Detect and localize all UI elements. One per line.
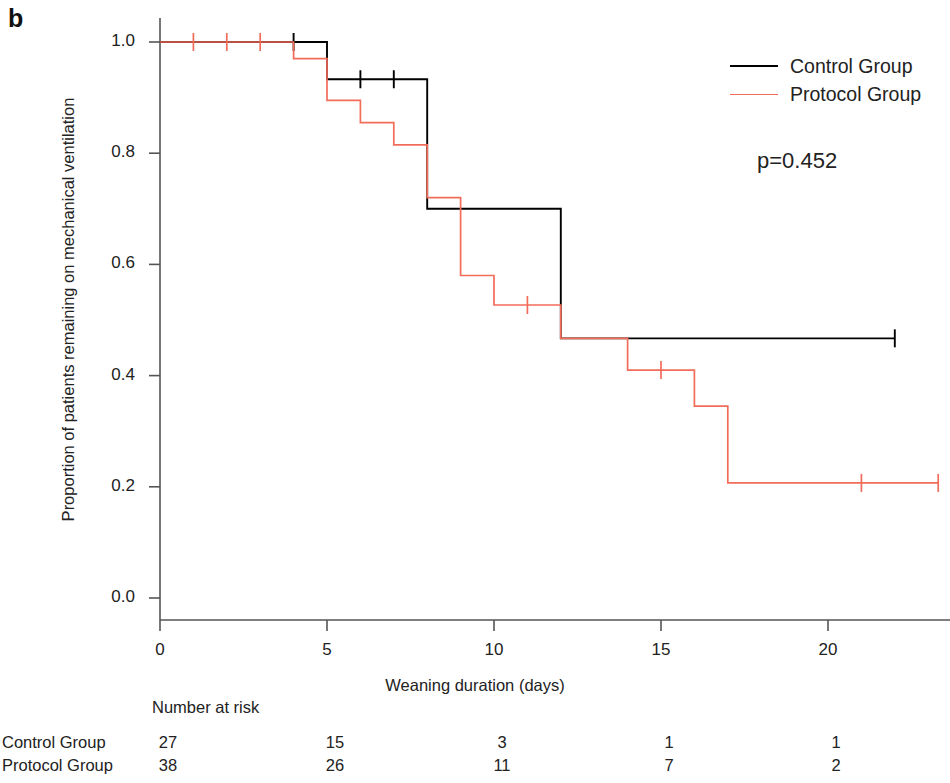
y-tick-label: 0.2: [75, 476, 135, 496]
risk-table-row: Control Group2715311: [0, 733, 950, 756]
legend-label-control: Control Group: [790, 55, 912, 78]
y-tick-label: 0.8: [75, 142, 135, 162]
y-tick-label: 0.0: [75, 587, 135, 607]
risk-cell: 27: [148, 733, 188, 752]
x-tick-label: 20: [808, 640, 848, 660]
legend-swatch-protocol-icon: [730, 94, 778, 95]
p-value-annotation: p=0.452: [757, 148, 837, 174]
x-axis-label: Weaning duration (days): [0, 676, 950, 695]
risk-cell: 1: [649, 733, 689, 752]
risk-cell: 3: [482, 733, 522, 752]
series-line-protocol: [160, 42, 938, 483]
x-tick-label: 10: [474, 640, 514, 660]
kaplan-meier-plot: [0, 0, 950, 783]
y-tick-label: 0.6: [75, 253, 135, 273]
risk-cell: 7: [649, 756, 689, 775]
legend-label-protocol: Protocol Group: [790, 83, 921, 106]
y-tick-label: 0.4: [75, 365, 135, 385]
y-tick-label: 1.0: [75, 31, 135, 51]
risk-cell: 2: [816, 756, 856, 775]
legend-item-protocol: Protocol Group: [730, 80, 921, 108]
risk-cell: 11: [482, 756, 522, 775]
x-tick-label: 5: [307, 640, 347, 660]
risk-table-title: Number at risk: [152, 698, 259, 717]
risk-table-row: Protocol Group38261172: [0, 756, 950, 779]
figure-panel: b Proportion of patients remaining on me…: [0, 0, 950, 783]
legend-swatch-control-icon: [730, 65, 778, 67]
legend-item-control: Control Group: [730, 52, 921, 80]
legend: Control Group Protocol Group: [730, 52, 921, 108]
x-tick-label: 15: [641, 640, 681, 660]
risk-table: Control Group2715311Protocol Group382611…: [0, 733, 950, 779]
risk-cell: 26: [315, 756, 355, 775]
risk-cell: 15: [315, 733, 355, 752]
risk-row-label: Control Group: [2, 733, 142, 752]
risk-row-label: Protocol Group: [2, 756, 142, 775]
risk-cell: 1: [816, 733, 856, 752]
y-axis-label: Proportion of patients remaining on mech…: [59, 30, 78, 590]
risk-cell: 38: [148, 756, 188, 775]
x-tick-label: 0: [140, 640, 180, 660]
